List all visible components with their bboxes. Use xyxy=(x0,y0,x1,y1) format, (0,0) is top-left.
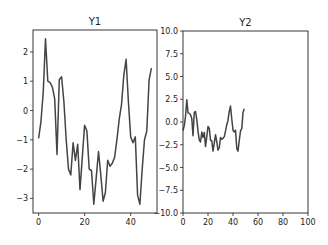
y-tick-label: 7.5 xyxy=(165,50,178,59)
x-tick-label: 0 xyxy=(180,218,185,227)
x-tick-label: 0 xyxy=(36,218,41,227)
axis-ticks-y2: 020406080100−10.0−7.5−5.0−2.50.02.55.07.… xyxy=(153,27,315,227)
y-tick-label: −5.0 xyxy=(159,164,178,173)
plot-frame-y2 xyxy=(183,31,308,213)
y-tick-label: 0.0 xyxy=(165,118,178,127)
x-tick-label: 100 xyxy=(300,218,315,227)
x-tick-label: 80 xyxy=(278,218,288,227)
subplot-y1: Y1 02040−3−2−1012 xyxy=(16,16,157,227)
x-tick-label: 20 xyxy=(80,218,90,227)
figure: Y1 02040−3−2−1012 Y2 020406080100−10.0−7… xyxy=(0,0,328,245)
x-tick-label: 40 xyxy=(228,218,238,227)
line-series-y1 xyxy=(39,39,152,204)
y-tick-label: 0 xyxy=(23,107,28,116)
y-tick-label: 2.5 xyxy=(165,95,178,104)
y-tick-label: 2 xyxy=(23,48,28,57)
subplot-title-y1: Y1 xyxy=(88,16,101,27)
y-tick-label: 5.0 xyxy=(165,73,178,82)
y-tick-label: −3 xyxy=(16,194,28,203)
y-tick-label: −2 xyxy=(16,165,28,174)
y-tick-label: −1 xyxy=(16,136,28,145)
x-tick-label: 40 xyxy=(126,218,136,227)
y-tick-label: −10.0 xyxy=(153,209,178,218)
x-tick-label: 20 xyxy=(203,218,213,227)
subplot-y2: Y2 020406080100−10.0−7.5−5.0−2.50.02.55.… xyxy=(153,17,315,227)
y-tick-label: 10.0 xyxy=(160,27,178,36)
subplot-title-y2: Y2 xyxy=(238,17,251,28)
line-series-y2 xyxy=(183,100,244,151)
y-tick-label: 1 xyxy=(23,77,28,86)
y-tick-label: −2.5 xyxy=(159,141,178,150)
y-tick-label: −7.5 xyxy=(159,186,178,195)
x-tick-label: 60 xyxy=(253,218,263,227)
